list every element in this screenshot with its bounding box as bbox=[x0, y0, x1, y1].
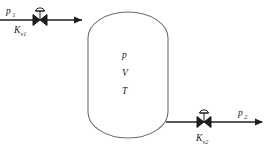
outlet-pipe-group bbox=[166, 119, 263, 126]
inlet-pressure-subscript: 1 bbox=[12, 11, 15, 18]
vessel-variable-pressure: p bbox=[121, 50, 127, 60]
vessel-outline bbox=[88, 12, 168, 138]
inlet-valve-right-triangle bbox=[40, 15, 47, 26]
process-diagram: p V T p 1 K v1 bbox=[0, 0, 265, 154]
inlet-valve-coefficient-subscript: v1 bbox=[21, 30, 27, 37]
diagram-canvas: p V T p 1 K v1 bbox=[0, 0, 265, 154]
inlet-pressure-label: p bbox=[5, 6, 11, 16]
outlet-valve-left-triangle bbox=[197, 117, 204, 128]
inlet-flow-arrow-icon bbox=[74, 17, 82, 24]
outlet-valve-right-triangle bbox=[204, 117, 211, 128]
outlet-control-valve-icon bbox=[197, 110, 211, 128]
inlet-valve-left-triangle bbox=[33, 15, 40, 26]
outlet-flow-arrow-icon bbox=[255, 119, 263, 126]
outlet-pressure-subscript: 2 bbox=[244, 113, 247, 120]
pressure-vessel bbox=[88, 12, 168, 138]
outlet-valve-coefficient-subscript: v2 bbox=[203, 138, 209, 145]
vessel-variable-temperature: T bbox=[122, 86, 128, 96]
outlet-pressure-label: p bbox=[237, 108, 243, 118]
inlet-control-valve-icon bbox=[33, 8, 47, 26]
